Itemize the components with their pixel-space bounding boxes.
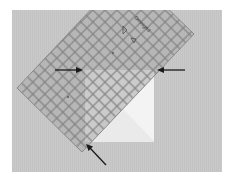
quilting-photo: Omnigrid <box>0 0 234 178</box>
